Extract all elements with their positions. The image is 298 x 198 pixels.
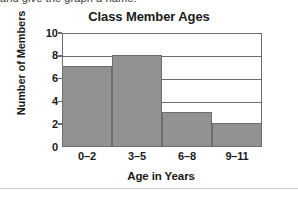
bar bbox=[112, 55, 162, 146]
bar-series bbox=[63, 34, 261, 146]
bar bbox=[162, 112, 212, 146]
x-axis-tick-label: 9–11 bbox=[212, 150, 262, 162]
x-axis-tick-label: 0–2 bbox=[62, 150, 112, 162]
y-axis-tick-label: 8 bbox=[38, 50, 58, 61]
chart-title: Class Member Ages bbox=[0, 9, 298, 24]
y-axis-tick-label: 6 bbox=[38, 73, 58, 84]
x-axis-tick-label: 3–5 bbox=[112, 150, 162, 162]
x-axis-tick-label: 6–8 bbox=[162, 150, 212, 162]
y-axis-tick-labels: 0246810 bbox=[38, 33, 58, 147]
bar bbox=[63, 66, 112, 146]
x-axis-label: Age in Years bbox=[0, 170, 298, 182]
bar-chart-figure: Class Member Ages Number of Members 0246… bbox=[0, 0, 298, 190]
y-axis-tick-label: 4 bbox=[38, 96, 58, 107]
y-axis-tick-label: 2 bbox=[38, 119, 58, 130]
y-axis-tick-mark bbox=[58, 101, 62, 103]
bar bbox=[212, 123, 261, 146]
y-axis-tick-mark bbox=[58, 55, 62, 57]
x-axis-tick-labels: 0–23–56–89–11 bbox=[62, 150, 262, 162]
bottom-divider bbox=[0, 188, 298, 189]
plot-area bbox=[62, 33, 262, 147]
y-axis-tick-mark bbox=[58, 78, 62, 80]
y-axis-tick-label: 0 bbox=[38, 142, 58, 153]
y-axis-tick-mark bbox=[58, 123, 62, 125]
y-axis-tick-mark bbox=[58, 32, 62, 34]
y-axis-label: Number of Members bbox=[15, 3, 27, 123]
y-axis-tick-label: 10 bbox=[38, 28, 58, 39]
